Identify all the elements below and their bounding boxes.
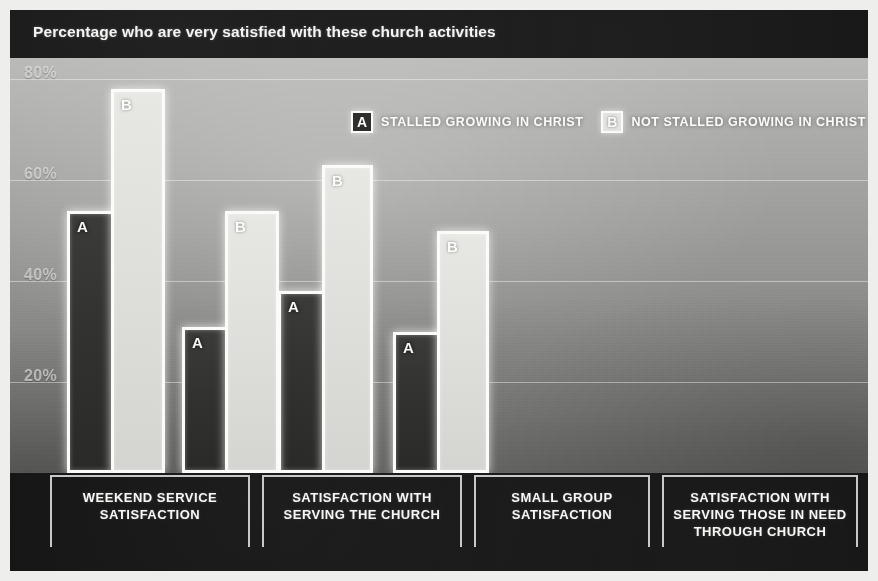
legend-item-a: A STALLED GROWING IN CHRIST	[351, 111, 583, 133]
chart-image: Percentage who are very satisfied with t…	[0, 0, 878, 581]
chart-legend: A STALLED GROWING IN CHRIST B NOT STALLE…	[351, 111, 866, 133]
gridline-80	[10, 79, 868, 80]
category-box-4: SATISFACTION WITHSERVING THOSE IN NEEDTH…	[662, 475, 858, 547]
y-axis-tick-label: 60%	[24, 165, 57, 183]
bar-tag-a: A	[192, 334, 203, 351]
category-label-2: SATISFACTION WITHSERVING THE CHURCH	[284, 489, 441, 523]
chart-footer: WEEKEND SERVICESATISFACTIONSATISFACTION …	[10, 473, 868, 571]
legend-item-b: B NOT STALLED GROWING IN CHRIST	[601, 111, 865, 133]
legend-swatch-a: A	[351, 111, 373, 133]
bar-b-group-4: B	[437, 231, 489, 473]
y-axis-tick-label: 40%	[24, 266, 57, 284]
bar-tag-a: A	[77, 218, 88, 235]
bar-b-group-2: B	[225, 211, 279, 474]
bar-tag-b: B	[121, 96, 132, 113]
category-label-4: SATISFACTION WITHSERVING THOSE IN NEEDTH…	[673, 489, 847, 540]
category-label-3: SMALL GROUPSATISFACTION	[511, 489, 612, 523]
bar-b-group-3: B	[322, 165, 373, 473]
y-axis-tick-label: 80%	[24, 64, 57, 82]
category-box-3: SMALL GROUPSATISFACTION	[474, 475, 650, 547]
bar-tag-b: B	[235, 218, 246, 235]
bar-b-group-1: B	[111, 89, 165, 473]
plot-area: 20%40%60%80% A STALLED GROWING IN CHRIST…	[10, 58, 868, 473]
category-box-1: WEEKEND SERVICESATISFACTION	[50, 475, 250, 547]
legend-swatch-b: B	[601, 111, 623, 133]
category-label-1: WEEKEND SERVICESATISFACTION	[83, 489, 217, 523]
bar-tag-b: B	[332, 172, 343, 189]
legend-label-a: STALLED GROWING IN CHRIST	[381, 115, 583, 129]
chart-frame: Percentage who are very satisfied with t…	[10, 10, 868, 571]
category-box-2: SATISFACTION WITHSERVING THE CHURCH	[262, 475, 462, 547]
legend-label-b: NOT STALLED GROWING IN CHRIST	[631, 115, 865, 129]
bar-tag-a: A	[288, 298, 299, 315]
chart-title: Percentage who are very satisfied with t…	[33, 23, 496, 41]
bar-tag-b: B	[447, 238, 458, 255]
bar-tag-a: A	[403, 339, 414, 356]
chart-header: Percentage who are very satisfied with t…	[10, 10, 868, 58]
y-axis-tick-label: 20%	[24, 367, 57, 385]
